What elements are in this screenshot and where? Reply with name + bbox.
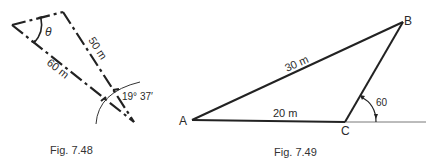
diagram-canvas: θ 50 m 60 m 19° 37′ Fig. 7.48 A B C 30 m… xyxy=(0,0,433,167)
figure-caption: Fig. 7.48 xyxy=(50,144,93,156)
angle-arc-c xyxy=(361,97,376,122)
side-ac-label: 20 m xyxy=(273,107,297,119)
side-ac xyxy=(192,120,345,122)
vertex-a-label: A xyxy=(179,114,187,128)
vertex-c-label: C xyxy=(341,124,350,138)
side-top-label: 50 m xyxy=(86,35,109,62)
side-cb xyxy=(345,22,403,122)
side-50m xyxy=(63,12,134,122)
vertex-b-label: B xyxy=(404,14,412,28)
arrow-icon xyxy=(374,114,378,119)
angle-tick xyxy=(113,89,119,90)
theta-label: θ xyxy=(45,25,52,39)
angle-label: 19° 37′ xyxy=(122,91,153,102)
angle-c-label: 60 xyxy=(376,97,388,108)
figure-caption: Fig. 7.49 xyxy=(274,146,317,158)
side-60m xyxy=(12,25,134,122)
figure-7-48: θ 50 m 60 m 19° 37′ Fig. 7.48 xyxy=(12,12,153,156)
side-left-top xyxy=(12,12,63,25)
side-left-label: 60 m xyxy=(45,56,72,81)
theta-arc xyxy=(34,19,42,43)
figure-7-49: A B C 30 m 20 m 60 Fig. 7.49 xyxy=(179,14,426,158)
